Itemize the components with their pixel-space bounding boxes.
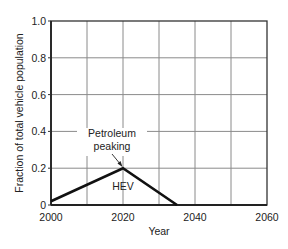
y-tick-label: 0 xyxy=(40,199,46,211)
x-tick-label: 2060 xyxy=(255,211,279,223)
x-tick-label: 2040 xyxy=(183,211,207,223)
series-label-hev: HEV xyxy=(112,180,134,192)
y-axis-label: Fraction of total vehicle population xyxy=(13,33,25,193)
x-tick-label: 2020 xyxy=(111,211,135,223)
annotation-petroleum: Petroleum xyxy=(88,127,136,139)
annotation-peaking: peaking xyxy=(94,140,131,152)
y-tick-label: 0.8 xyxy=(31,52,46,64)
y-tick-label: 1.0 xyxy=(31,15,46,27)
x-axis-label: Year xyxy=(148,225,170,237)
y-tick-label: 0.2 xyxy=(31,162,46,174)
y-tick-label: 0.6 xyxy=(31,89,46,101)
x-tick-label: 2000 xyxy=(39,211,63,223)
chart: 0 0.2 0.4 0.6 0.8 1.0 2000 2020 2040 206… xyxy=(0,0,288,249)
grid xyxy=(51,21,267,205)
y-tick-label: 0.4 xyxy=(31,125,46,137)
